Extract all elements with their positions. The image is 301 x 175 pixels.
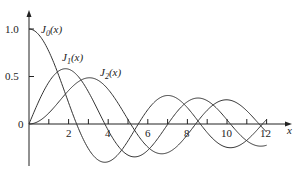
y-label-1: 1.0	[5, 23, 19, 35]
series-label-j0: J0(x)	[41, 23, 62, 38]
x-ticks	[49, 119, 267, 124]
x-label-10: 10	[221, 127, 233, 139]
y-label-05: 0.5	[5, 70, 19, 82]
y-axis-arrow-icon	[27, 10, 32, 17]
series-label-j1: J1(x)	[62, 51, 83, 66]
x-axis-label: x	[286, 124, 292, 136]
origin-label: 0	[18, 118, 24, 130]
x-label-12: 12	[260, 127, 271, 139]
bessel-chart: 1.0 0.5 0 2 4 6 8 10 12 x J0(x) J1(x) J2…	[0, 0, 301, 175]
x-label-2: 2	[66, 127, 72, 139]
curves	[29, 29, 267, 162]
curve-j2x	[29, 78, 267, 154]
curve-j1x	[29, 69, 267, 157]
x-label-6: 6	[145, 127, 151, 139]
series-label-j2: J2(x)	[100, 66, 121, 81]
